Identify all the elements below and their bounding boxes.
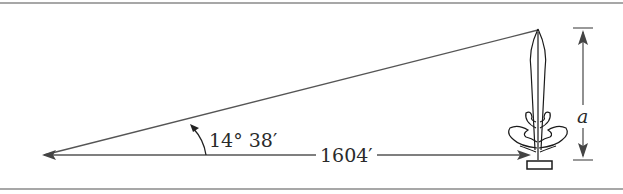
sight-line [44,30,538,155]
height-label: a [577,105,588,128]
angle-arrowhead-icon [190,124,199,132]
tree-icon [509,29,568,169]
distance-label: 1604′ [316,146,377,165]
angle-label: 14° 38′ [209,131,277,150]
angle-arc [193,128,206,155]
